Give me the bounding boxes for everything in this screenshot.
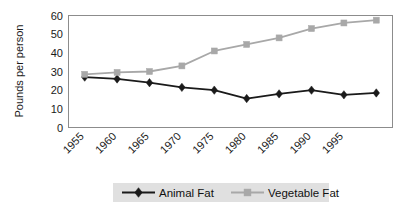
x-axis-tick-labels: 195519601965197019751980198519901995 <box>60 130 345 156</box>
x-tick-label: 1965 <box>125 130 151 156</box>
x-tick-label: 1990 <box>287 130 313 156</box>
y-tick-label: 50 <box>51 28 63 40</box>
square-marker <box>82 71 88 77</box>
square-marker <box>211 48 217 54</box>
legend-label: Animal Fat <box>159 187 215 199</box>
y-axis-tick-labels: 0102030405060 <box>51 10 63 134</box>
y-tick-label: 60 <box>51 10 63 22</box>
chart-container: Pounds per person 0102030405060 19551960… <box>0 0 411 211</box>
y-tick-label: 10 <box>51 103 63 115</box>
x-tick-label: 1955 <box>60 130 86 156</box>
x-tick-label: 1985 <box>255 130 281 156</box>
square-marker <box>147 69 153 75</box>
square-marker <box>309 26 315 32</box>
x-tick-label: 1995 <box>320 130 346 156</box>
square-marker <box>373 17 379 23</box>
y-tick-label: 40 <box>51 47 63 59</box>
y-tick-label: 30 <box>51 66 63 78</box>
square-marker <box>179 63 185 69</box>
legend-label: Vegetable Fat <box>268 187 340 199</box>
y-axis-title: Pounds per person <box>13 25 25 118</box>
square-marker <box>244 41 250 47</box>
square-marker <box>244 189 251 196</box>
square-marker <box>114 69 120 75</box>
line-chart: Pounds per person 0102030405060 19551960… <box>0 0 411 211</box>
square-marker <box>276 35 282 41</box>
y-tick-label: 0 <box>57 122 63 134</box>
y-tick-label: 20 <box>51 84 63 96</box>
x-tick-label: 1975 <box>190 130 216 156</box>
x-tick-label: 1960 <box>93 130 119 156</box>
square-marker <box>341 20 347 26</box>
x-tick-label: 1970 <box>158 130 184 156</box>
x-tick-label: 1980 <box>222 130 248 156</box>
